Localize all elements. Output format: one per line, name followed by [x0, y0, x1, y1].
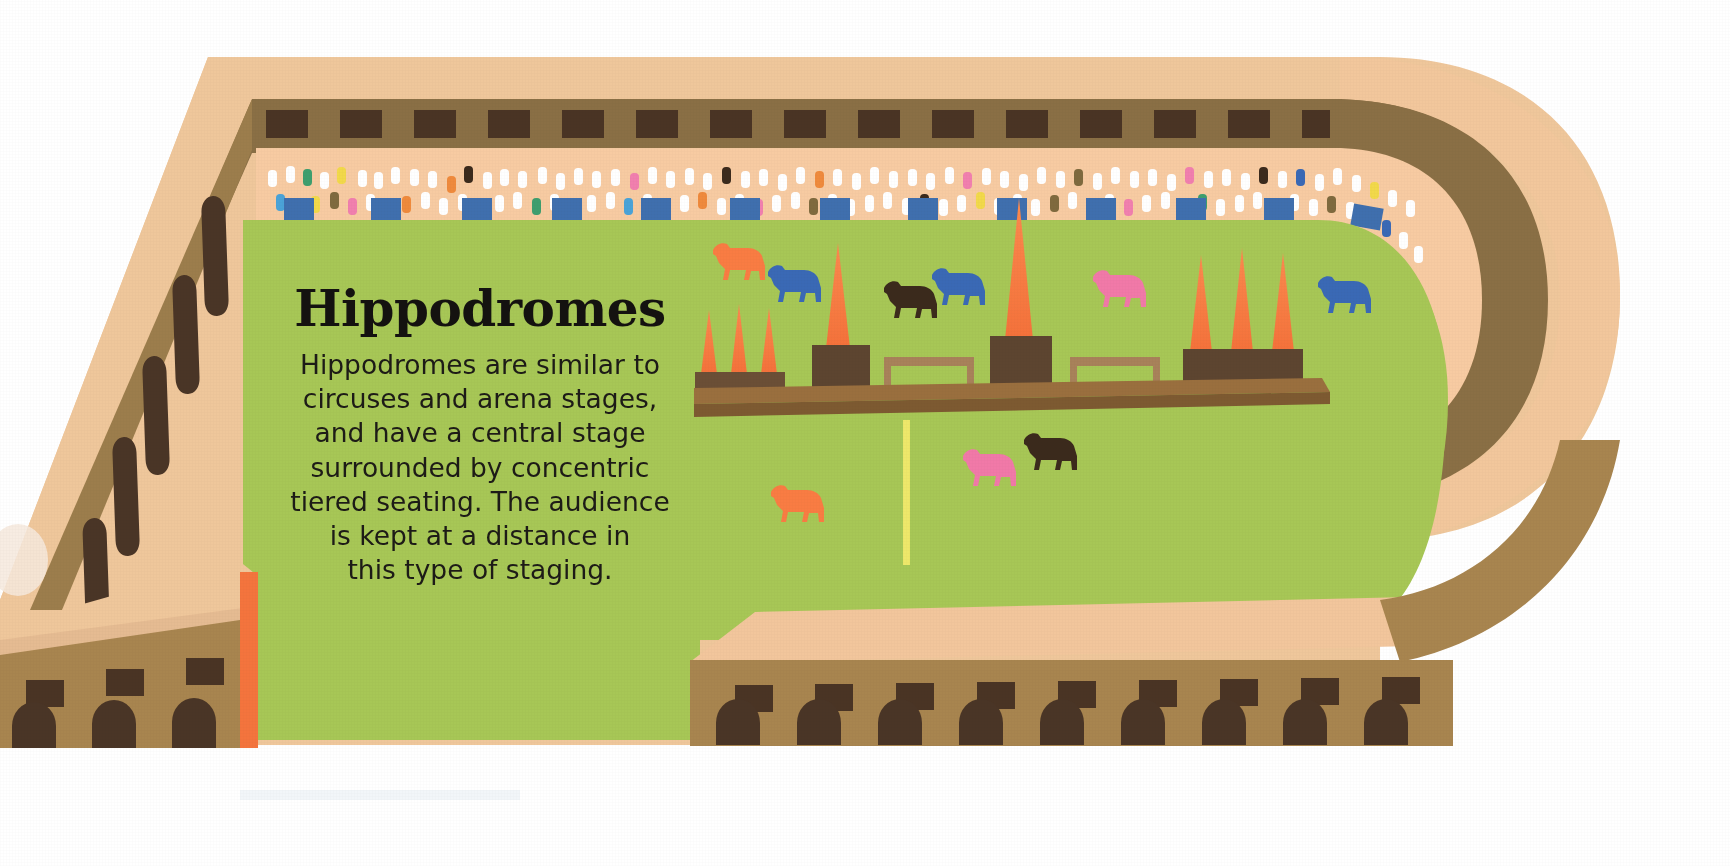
left-arcade-arches: [12, 698, 216, 748]
obelisk-large-left-base: [812, 345, 870, 389]
center-line-yellow: [903, 420, 910, 565]
top-wall-windows: [266, 110, 1342, 138]
page-bottom-edge: [240, 790, 520, 800]
hippodrome-illustration: [0, 0, 1730, 866]
arcade-arches: [716, 699, 1408, 745]
illustration-canvas: Hippodromes Hippodromes are similar to c…: [0, 0, 1730, 866]
obelisk-central-base: [990, 336, 1052, 388]
accent-orange-strip: [240, 572, 258, 748]
